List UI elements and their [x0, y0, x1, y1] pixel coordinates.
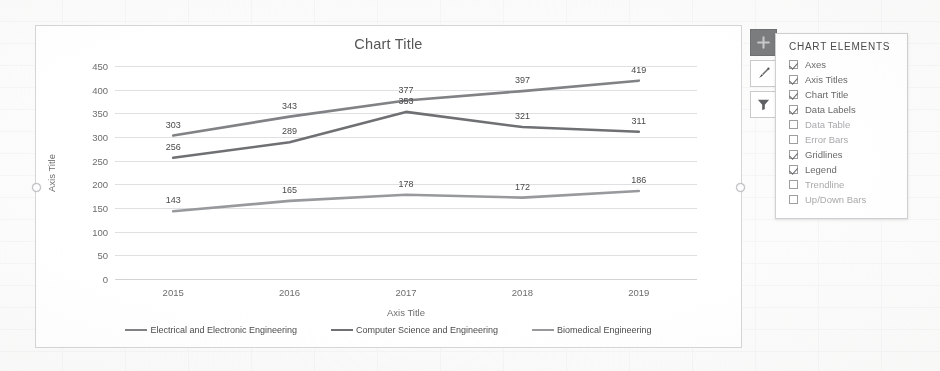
- data-label: 321: [515, 111, 530, 121]
- data-label: 289: [282, 126, 297, 136]
- data-label: 186: [631, 175, 646, 185]
- data-label: 165: [282, 185, 297, 195]
- y-axis-tick-label: 200: [92, 179, 108, 190]
- checkbox-checked-icon[interactable]: [789, 150, 798, 159]
- chart-elements-button[interactable]: [750, 29, 777, 56]
- y-axis-tick-label: 250: [92, 155, 108, 166]
- data-label: 343: [282, 101, 297, 111]
- data-label: 377: [398, 85, 413, 95]
- checkbox-checked-icon[interactable]: [789, 90, 798, 99]
- checkbox-unchecked-icon[interactable]: [789, 195, 798, 204]
- checkbox-checked-icon[interactable]: [789, 105, 798, 114]
- x-axis-tick-label: 2017: [395, 287, 416, 298]
- legend-color-swatch: [532, 329, 554, 331]
- chart-element-label: Axis Titles: [805, 74, 848, 85]
- chart-element-row[interactable]: Up/Down Bars: [776, 192, 907, 207]
- y-axis-tick-label: 350: [92, 108, 108, 119]
- data-label: 353: [398, 96, 413, 106]
- paintbrush-icon: [756, 66, 771, 81]
- y-axis-tick-label: 450: [92, 61, 108, 72]
- data-label: 397: [515, 75, 530, 85]
- legend-item[interactable]: Computer Science and Engineering: [331, 325, 498, 335]
- y-axis-tick-label: 0: [103, 274, 108, 285]
- y-axis-tick-label: 50: [97, 250, 108, 261]
- chart-element-label: Trendline: [805, 179, 844, 190]
- plot-area[interactable]: Axis Title 050100150200250300350400450 3…: [115, 66, 697, 279]
- x-axis-tick-labels: 20152016201720182019: [115, 279, 697, 301]
- chart-element-label: Error Bars: [805, 134, 848, 145]
- legend-item[interactable]: Biomedical Engineering: [532, 325, 652, 335]
- funnel-icon: [756, 97, 771, 112]
- chart-element-label: Axes: [805, 59, 826, 70]
- data-label: 172: [515, 182, 530, 192]
- series-line[interactable]: [173, 191, 639, 211]
- x-axis-tick-label: 2019: [628, 287, 649, 298]
- legend-item[interactable]: Electrical and Electronic Engineering: [125, 325, 297, 335]
- checkbox-checked-icon[interactable]: [789, 60, 798, 69]
- resize-handle-middle-left[interactable]: [32, 183, 41, 192]
- chart-element-label: Chart Title: [805, 89, 848, 100]
- plus-icon: [757, 36, 770, 49]
- chart-element-row[interactable]: Data Labels: [776, 102, 907, 117]
- y-axis-tick-label: 300: [92, 132, 108, 143]
- x-axis-tick-label: 2015: [163, 287, 184, 298]
- chart-filters-button[interactable]: [750, 91, 777, 118]
- chart-styles-button[interactable]: [750, 60, 777, 87]
- legend-label: Biomedical Engineering: [557, 325, 652, 335]
- checkbox-unchecked-icon[interactable]: [789, 135, 798, 144]
- legend-color-swatch: [331, 329, 353, 331]
- series-line[interactable]: [173, 112, 639, 158]
- chart-element-row[interactable]: Axes: [776, 57, 907, 72]
- x-axis-title[interactable]: Axis Title: [115, 307, 697, 318]
- chart-element-label: Data Labels: [805, 104, 856, 115]
- chart-element-row[interactable]: Gridlines: [776, 147, 907, 162]
- chart-element-label: Legend: [805, 164, 837, 175]
- data-label: 178: [398, 179, 413, 189]
- chart-element-row[interactable]: Error Bars: [776, 132, 907, 147]
- chart-elements-title: CHART ELEMENTS: [789, 41, 907, 52]
- y-axis-tick-label: 150: [92, 203, 108, 214]
- legend-label: Electrical and Electronic Engineering: [150, 325, 297, 335]
- chart-tool-buttons[interactable]: [750, 29, 777, 118]
- y-axis-tick-label: 400: [92, 84, 108, 95]
- chart-element-label: Data Table: [805, 119, 850, 130]
- chart-element-row[interactable]: Data Table: [776, 117, 907, 132]
- chart-elements-list[interactable]: AxesAxis TitlesChart TitleData LabelsDat…: [776, 57, 907, 207]
- checkbox-unchecked-icon[interactable]: [789, 180, 798, 189]
- x-axis-tick-label: 2016: [279, 287, 300, 298]
- chart-title[interactable]: Chart Title: [36, 36, 741, 52]
- data-label: 419: [631, 65, 646, 75]
- y-axis-tick-label: 100: [92, 226, 108, 237]
- resize-handle-middle-right[interactable]: [736, 183, 745, 192]
- chart-elements-panel[interactable]: CHART ELEMENTS AxesAxis TitlesChart Titl…: [775, 33, 908, 219]
- chart-element-label: Gridlines: [805, 149, 843, 160]
- data-label: 143: [166, 195, 181, 205]
- checkbox-checked-icon[interactable]: [789, 75, 798, 84]
- checkbox-unchecked-icon[interactable]: [789, 120, 798, 129]
- chart-element-row[interactable]: Chart Title: [776, 87, 907, 102]
- x-axis-tick-label: 2018: [512, 287, 533, 298]
- data-label: 311: [632, 116, 646, 126]
- data-label: 256: [166, 142, 181, 152]
- chart-object[interactable]: Chart Title Axis Title 05010015020025030…: [35, 25, 742, 348]
- chart-element-row[interactable]: Legend: [776, 162, 907, 177]
- legend-label: Computer Science and Engineering: [356, 325, 498, 335]
- chart-element-label: Up/Down Bars: [805, 194, 866, 205]
- chart-element-row[interactable]: Trendline: [776, 177, 907, 192]
- y-axis-title[interactable]: Axis Title: [46, 153, 57, 191]
- checkbox-checked-icon[interactable]: [789, 165, 798, 174]
- data-label: 303: [166, 120, 181, 130]
- chart-element-row[interactable]: Axis Titles: [776, 72, 907, 87]
- chart-legend[interactable]: Electrical and Electronic EngineeringCom…: [36, 325, 741, 335]
- legend-color-swatch: [125, 329, 147, 331]
